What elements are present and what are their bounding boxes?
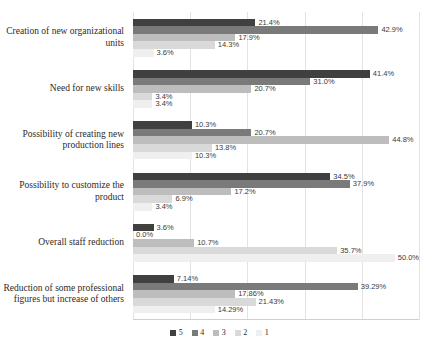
bar-row: 10.7% xyxy=(133,239,419,247)
bar-value-label: 17.2% xyxy=(234,188,255,196)
bar-group: 21.4%42.9%17.9%14.3%3.6% xyxy=(133,12,419,63)
bar-value-label: 20.7% xyxy=(254,129,275,137)
bar-row: 41.4% xyxy=(133,70,419,78)
bar-value-label: 0.0% xyxy=(136,231,153,239)
bar-row: 20.7% xyxy=(133,85,419,93)
bar-row: 21.4% xyxy=(133,19,419,27)
bar-series-1 xyxy=(133,100,152,108)
bar-row: 42.9% xyxy=(133,26,419,34)
bar-value-label: 20.7% xyxy=(254,85,275,93)
bar-row: 14.29% xyxy=(133,306,419,314)
bar-value-label: 34.5% xyxy=(333,173,354,181)
bar-row: 31.0% xyxy=(133,78,419,86)
bar-row: 50.0% xyxy=(133,254,419,262)
bar-series-1 xyxy=(133,203,152,211)
bar-row: 21.43% xyxy=(133,298,419,306)
bar-value-label: 31.0% xyxy=(313,78,334,86)
bar-series-1 xyxy=(133,49,154,57)
bar-series-5 xyxy=(133,173,330,181)
bar-row: 35.7% xyxy=(133,247,419,255)
legend-label: 5 xyxy=(179,328,183,337)
bar-value-label: 7.14% xyxy=(177,275,198,283)
bar-group: 3.6%0.0%10.7%35.7%50.0% xyxy=(133,217,419,268)
bar-row: 14.3% xyxy=(133,41,419,49)
bar-value-label: 21.4% xyxy=(258,19,279,27)
legend-swatch-icon xyxy=(192,330,198,336)
bar-row: 3.4% xyxy=(133,203,419,211)
plot-area: 21.4%42.9%17.9%14.3%3.6%41.4%31.0%20.7%3… xyxy=(133,12,419,320)
legend-item-1[interactable]: 1 xyxy=(256,328,269,337)
bar-value-label: 14.3% xyxy=(218,41,239,49)
legend-swatch-icon xyxy=(170,330,176,336)
bar-series-3 xyxy=(133,136,389,144)
category-label: Need for new skills xyxy=(0,63,129,114)
bar-chart: Creation of new organizational unitsNeed… xyxy=(0,0,439,350)
bar-row: 6.9% xyxy=(133,195,419,203)
bar-row: 13.8% xyxy=(133,144,419,152)
legend-label: 3 xyxy=(222,328,226,337)
bar-series-5 xyxy=(133,275,174,283)
bar-value-label: 41.4% xyxy=(373,70,394,78)
bar-row: 3.6% xyxy=(133,49,419,57)
bar-value-label: 39.29% xyxy=(361,283,386,291)
bar-series-4 xyxy=(133,129,251,137)
bar-row: 37.9% xyxy=(133,180,419,188)
category-label: Creation of new organizational units xyxy=(0,12,129,63)
bar-value-label: 37.9% xyxy=(353,180,374,188)
bar-value-label: 44.8% xyxy=(392,136,413,144)
legend-swatch-icon xyxy=(235,330,241,336)
bar-value-label: 3.4% xyxy=(155,203,172,211)
bar-series-4 xyxy=(133,78,310,86)
bar-row: 3.4% xyxy=(133,100,419,108)
legend-item-2[interactable]: 2 xyxy=(235,328,248,337)
bar-value-label: 13.8% xyxy=(215,144,236,152)
legend-label: 4 xyxy=(200,328,204,337)
legend-item-5[interactable]: 5 xyxy=(170,328,183,337)
bar-row: 20.7% xyxy=(133,129,419,137)
bar-value-label: 21.43% xyxy=(259,298,284,306)
bar-value-label: 14.29% xyxy=(218,306,243,314)
bar-value-label: 50.0% xyxy=(398,254,419,262)
bar-series-1 xyxy=(133,152,192,160)
bar-group: 7.14%39.29%17.86%21.43%14.29% xyxy=(133,268,419,319)
legend-swatch-icon xyxy=(256,330,262,336)
legend-label: 2 xyxy=(243,328,247,337)
gridline-50 xyxy=(419,12,420,320)
bar-series-3 xyxy=(133,85,251,93)
bar-value-label: 3.4% xyxy=(155,100,172,108)
bar-value-label: 10.3% xyxy=(195,152,216,160)
bar-series-2 xyxy=(133,247,337,255)
bar-row: 39.29% xyxy=(133,283,419,291)
bar-row: 10.3% xyxy=(133,152,419,160)
bar-row: 44.8% xyxy=(133,136,419,144)
bar-row: 17.9% xyxy=(133,34,419,42)
chart-legend: 54321 xyxy=(0,328,439,337)
bar-value-label: 3.6% xyxy=(157,224,174,232)
bar-series-3 xyxy=(133,239,194,247)
bar-series-5 xyxy=(133,121,192,129)
bar-value-label: 42.9% xyxy=(381,26,402,34)
category-label: Reduction of some professional figures b… xyxy=(0,268,129,319)
bar-row: 3.4% xyxy=(133,93,419,101)
legend-swatch-icon xyxy=(213,330,219,336)
bar-value-label: 17.9% xyxy=(238,34,259,42)
bar-value-label: 10.7% xyxy=(197,239,218,247)
bar-row: 34.5% xyxy=(133,173,419,181)
category-label: Overall staff reduction xyxy=(0,217,129,268)
bar-group: 34.5%37.9%17.2%6.9%3.4% xyxy=(133,166,419,217)
bar-series-2 xyxy=(133,93,152,101)
bar-row: 0.0% xyxy=(133,231,419,239)
bar-series-1 xyxy=(133,306,215,314)
bar-value-label: 35.7% xyxy=(340,247,361,255)
bar-series-1 xyxy=(133,254,395,262)
legend-item-3[interactable]: 3 xyxy=(213,328,226,337)
category-label: Possibility of creating new production l… xyxy=(0,115,129,166)
bar-series-3 xyxy=(133,290,235,298)
bar-row: 3.6% xyxy=(133,224,419,232)
bar-group: 10.3%20.7%44.8%13.8%10.3% xyxy=(133,115,419,166)
category-axis-labels: Creation of new organizational unitsNeed… xyxy=(0,12,129,320)
bar-row: 10.3% xyxy=(133,121,419,129)
bar-series-5 xyxy=(133,19,255,27)
legend-item-4[interactable]: 4 xyxy=(192,328,205,337)
bar-value-label: 10.3% xyxy=(195,121,216,129)
